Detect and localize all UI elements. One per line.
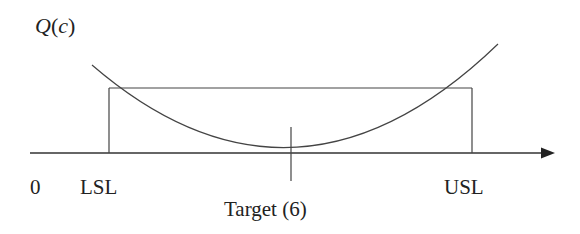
loss-curve — [92, 44, 498, 148]
lsl-label: LSL — [80, 175, 117, 199]
y-axis-label: Q(c) — [35, 13, 75, 38]
usl-label: USL — [444, 175, 484, 199]
loss-function-diagram: Q(c) 0 LSL USL Target (6) — [0, 0, 580, 234]
x-axis-arrow-icon — [541, 148, 555, 159]
origin-label: 0 — [30, 175, 41, 199]
target-label: Target (6) — [224, 197, 307, 221]
